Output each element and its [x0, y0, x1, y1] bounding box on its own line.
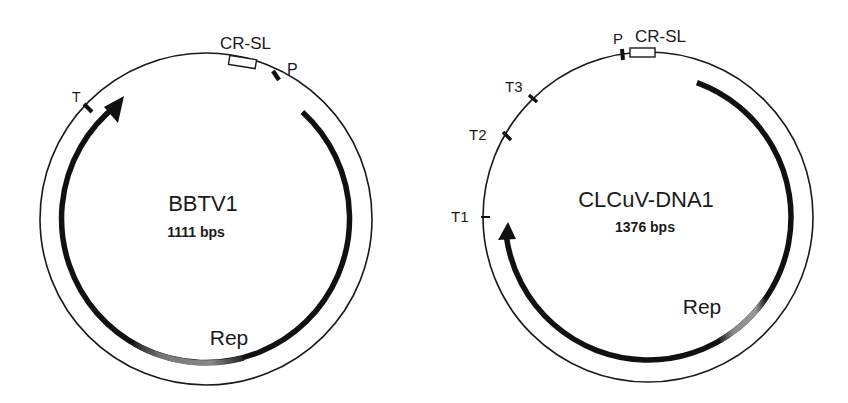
stem-loop-label: CR-SL [220, 34, 271, 53]
plasmid-maps-figure: T CR-SL P BBTV1 1111 bps Rep P CR-SL [0, 0, 848, 403]
terminator-3-label: T3 [505, 78, 523, 95]
terminator-marker [84, 104, 92, 112]
terminator-1-label: T1 [451, 208, 469, 225]
map-name: BBTV1 [168, 191, 238, 216]
promoter-marker [622, 49, 623, 60]
promoter-label: P [287, 61, 298, 78]
promoter-marker [273, 71, 279, 80]
map-size: 1376 bps [615, 219, 675, 235]
gene-label: Rep [210, 326, 249, 349]
stem-loop-label: CR-SL [635, 27, 686, 46]
map-bbtv1: T CR-SL P BBTV1 1111 bps Rep [40, 34, 372, 385]
stem-loop-box [630, 48, 655, 57]
genome-circle [483, 52, 813, 382]
rep-arrowhead [498, 222, 516, 240]
genome-circle [40, 53, 372, 385]
rep-arrowhead [104, 96, 124, 123]
terminator-2-label: T2 [469, 126, 487, 143]
gene-label: Rep [683, 295, 722, 318]
promoter-label: P [613, 30, 623, 47]
map-clcuv-dna1: P CR-SL T3 T2 T1 CLCuV-DNA1 1376 bps Rep [451, 27, 813, 382]
stem-loop-box [228, 56, 256, 69]
map-name: CLCuV-DNA1 [578, 187, 714, 212]
rep-orf-fade [720, 299, 766, 341]
map-size: 1111 bps [167, 224, 225, 240]
terminator-label: T [72, 89, 81, 105]
